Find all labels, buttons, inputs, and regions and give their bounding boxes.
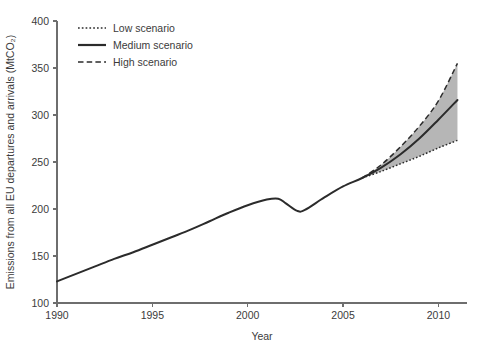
legend-label: Medium scenario [113,39,193,51]
legend-label: Low scenario [113,22,175,34]
series-group [57,63,457,281]
axis-group: 100150200250300350400 199019952000200520… [31,15,467,321]
x-axis-tick-labels: 19901995200020052010 [45,309,450,321]
x-axis-title: Year [251,330,273,342]
x-tick-label: 1990 [45,309,69,321]
y-tick-label: 200 [31,203,49,215]
emissions-scenario-chart: 100150200250300350400 199019952000200520… [0,0,481,346]
x-tick-label: 1995 [141,309,165,321]
legend-label: High scenario [113,56,177,68]
y-tick-label: 350 [31,62,49,74]
y-tick-label: 300 [31,109,49,121]
y-axis-title: Emissions from all EU departures and arr… [4,35,16,289]
y-tick-label: 100 [31,297,49,309]
x-tick-label: 2005 [331,309,355,321]
x-axis-ticks [57,303,438,307]
series-medium-scenario [57,100,457,281]
y-tick-label: 250 [31,156,49,168]
y-axis-tick-labels: 100150200250300350400 [31,15,49,309]
y-tick-label: 400 [31,15,49,27]
y-axis-ticks [53,21,57,303]
legend: Low scenarioMedium scenarioHigh scenario [78,22,193,68]
chart-canvas: 100150200250300350400 199019952000200520… [0,0,481,346]
x-tick-label: 2000 [236,309,260,321]
y-tick-label: 150 [31,250,49,262]
x-tick-label: 2010 [427,309,451,321]
y-axis-title-group: Emissions from all EU departures and arr… [4,35,16,289]
